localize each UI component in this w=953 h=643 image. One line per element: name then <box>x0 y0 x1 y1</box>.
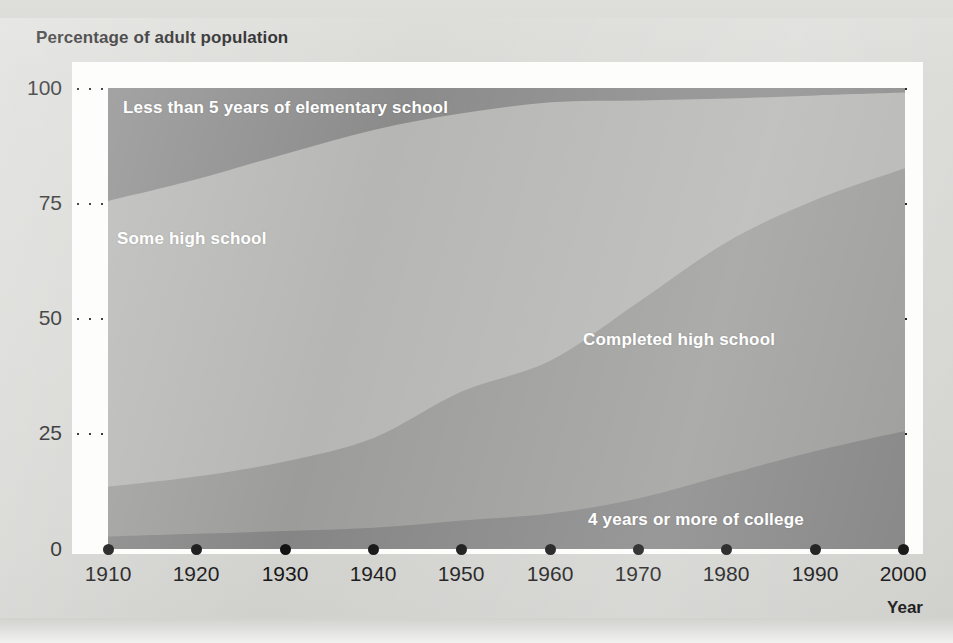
x-tick-label-2000: 2000 <box>865 563 941 584</box>
y-tick-100: 100 <box>0 77 62 98</box>
x-tick-dot-1950 <box>456 544 467 555</box>
series-label-elementary: Less than 5 years of elementary school <box>123 98 448 118</box>
series-label-completed-high-school: Completed high school <box>583 330 775 350</box>
x-tick-label-1990: 1990 <box>777 563 853 584</box>
x-tick-dot-1980 <box>721 544 732 555</box>
x-tick-label-1920: 1920 <box>158 563 234 584</box>
y-tick-50: 50 <box>0 307 62 328</box>
area-chart-svg <box>108 88 905 549</box>
x-tick-dot-1960 <box>545 544 556 555</box>
series-label-college: 4 years or more of college <box>588 510 804 530</box>
x-tick-label-1950: 1950 <box>423 563 499 584</box>
series-label-some-high-school: Some high school <box>117 229 267 249</box>
y-tick-75: 75 <box>0 192 62 213</box>
x-tick-label-1970: 1970 <box>600 563 676 584</box>
x-tick-label-1960: 1960 <box>512 563 588 584</box>
x-tick-label-1940: 1940 <box>335 563 411 584</box>
x-tick-dot-1940 <box>368 544 379 555</box>
x-tick-label-1930: 1930 <box>247 563 323 584</box>
x-tick-dot-2000 <box>898 544 909 555</box>
stacked-area-plot <box>108 88 905 549</box>
page-title: Percentage of adult population <box>36 28 288 48</box>
x-tick-dot-1920 <box>191 544 202 555</box>
x-tick-dot-1990 <box>810 544 821 555</box>
y-tick-0: 0 <box>0 538 62 559</box>
x-tick-label-1980: 1980 <box>688 563 764 584</box>
x-tick-dot-1930 <box>280 544 291 555</box>
x-tick-dot-1910 <box>103 544 114 555</box>
x-tick-label-1910: 1910 <box>70 563 146 584</box>
x-axis-title: Year <box>887 598 923 618</box>
x-tick-dot-1970 <box>633 544 644 555</box>
y-tick-25: 25 <box>0 422 62 443</box>
